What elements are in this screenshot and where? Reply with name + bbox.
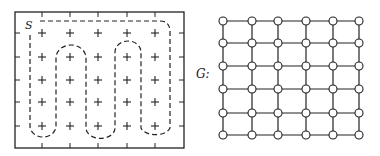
graph-node xyxy=(219,62,227,70)
graph-node xyxy=(248,85,256,93)
graph-node xyxy=(302,62,310,70)
graph-node xyxy=(274,62,282,70)
graph-node xyxy=(355,109,363,117)
graph-node xyxy=(355,131,363,139)
serpentine-scan-figure xyxy=(15,12,184,148)
graph-node xyxy=(248,17,256,25)
graph-node xyxy=(219,39,227,47)
graph-node xyxy=(329,17,337,25)
grid-graph-figure xyxy=(219,17,363,139)
graph-node xyxy=(355,62,363,70)
graph-node xyxy=(274,85,282,93)
figure-canvas: S G: xyxy=(0,0,380,156)
graph-node xyxy=(302,109,310,117)
start-label: S xyxy=(25,19,33,32)
graph-node xyxy=(274,109,282,117)
graph-node xyxy=(355,85,363,93)
graph-node xyxy=(248,109,256,117)
graph-node xyxy=(219,85,227,93)
graph-node xyxy=(302,85,310,93)
graph-node xyxy=(329,109,337,117)
graph-node xyxy=(329,85,337,93)
graph-node xyxy=(219,17,227,25)
graph-node xyxy=(248,39,256,47)
graph-node xyxy=(302,17,310,25)
graph-node xyxy=(274,131,282,139)
graph-label: G: xyxy=(196,67,210,81)
graph-node xyxy=(355,17,363,25)
graph-node xyxy=(302,131,310,139)
graph-node xyxy=(329,62,337,70)
graph-node xyxy=(248,62,256,70)
graph-node xyxy=(219,109,227,117)
graph-node xyxy=(329,131,337,139)
graph-node xyxy=(274,39,282,47)
graph-node xyxy=(274,17,282,25)
graph-node xyxy=(219,131,227,139)
graph-node xyxy=(248,131,256,139)
graph-node xyxy=(302,39,310,47)
graph-node xyxy=(355,39,363,47)
graph-node xyxy=(329,39,337,47)
